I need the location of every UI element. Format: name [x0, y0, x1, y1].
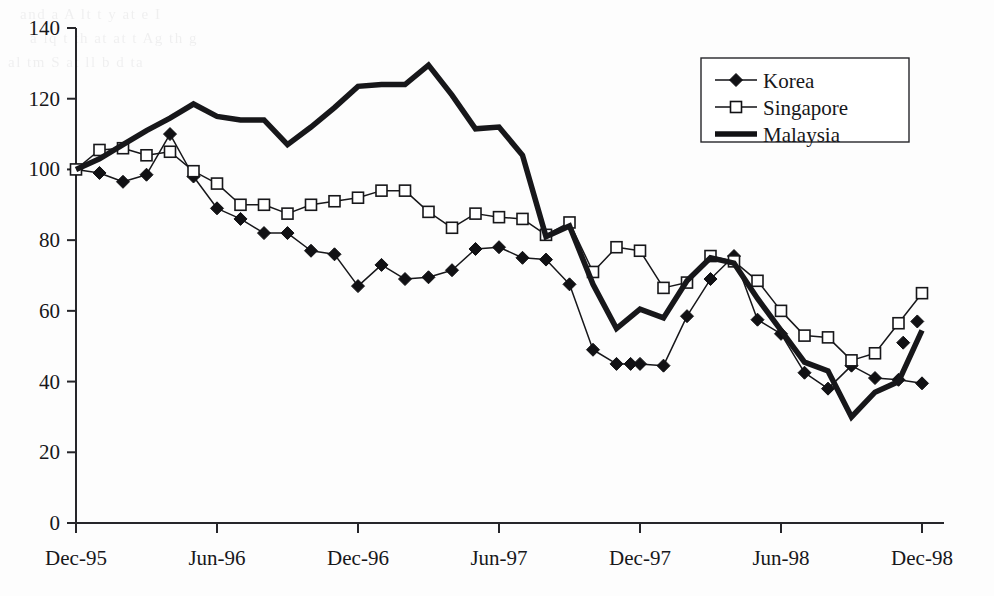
- data-point-marker: [258, 227, 271, 240]
- data-point-marker: [399, 273, 412, 286]
- data-point-marker: [423, 206, 434, 217]
- data-point-marker: [141, 150, 152, 161]
- data-point-marker: [624, 357, 637, 370]
- data-point-marker: [751, 313, 764, 326]
- x-tick-label: Dec-96: [327, 546, 389, 570]
- data-point-marker: [516, 251, 529, 264]
- data-point-marker: [798, 366, 811, 379]
- data-point-marker: [517, 213, 528, 224]
- y-tick-label: 40: [39, 370, 60, 394]
- data-point-marker: [610, 357, 623, 370]
- legend-label: Korea: [763, 69, 815, 93]
- data-point-marker: [164, 128, 177, 141]
- x-axis-ticks: [76, 523, 922, 533]
- data-point-marker: [470, 208, 481, 219]
- data-point-marker: [306, 199, 317, 210]
- data-point-marker: [587, 343, 600, 356]
- data-point-marker: [916, 377, 929, 390]
- y-tick-label: 140: [29, 16, 61, 40]
- data-point-marker: [305, 244, 318, 257]
- data-point-marker: [752, 275, 763, 286]
- y-tick-label: 20: [39, 440, 60, 464]
- data-point-marker: [212, 178, 223, 189]
- data-point-marker: [493, 241, 506, 254]
- data-point-marker: [282, 208, 293, 219]
- x-tick-label: Dec-95: [45, 546, 107, 570]
- legend-label: Singapore: [763, 96, 848, 120]
- data-point-marker: [799, 330, 810, 341]
- data-point-marker: [235, 199, 246, 210]
- data-point-marker: [422, 271, 435, 284]
- data-point-marker: [211, 202, 224, 215]
- data-point-marker: [259, 199, 270, 210]
- y-axis-tick-labels: 020406080100120140: [29, 16, 61, 535]
- data-point-marker: [897, 336, 910, 349]
- x-tick-label: Dec-97: [609, 546, 671, 570]
- data-point-marker: [494, 212, 505, 223]
- data-point-marker: [657, 359, 670, 372]
- data-point-marker: [329, 196, 340, 207]
- line-chart: 020406080100120140 Dec-95Jun-96Dec-96Jun…: [0, 0, 994, 596]
- legend-label: Malaysia: [763, 123, 841, 147]
- data-point-marker: [234, 212, 247, 225]
- y-tick-label: 100: [29, 157, 61, 181]
- data-point-marker: [281, 227, 294, 240]
- data-point-marker: [823, 332, 834, 343]
- data-point-marker: [893, 318, 904, 329]
- data-point-marker: [870, 348, 881, 359]
- y-tick-label: 120: [29, 87, 61, 111]
- data-point-marker: [328, 248, 341, 261]
- x-tick-label: Dec-98: [891, 546, 953, 570]
- y-tick-label: 0: [50, 511, 61, 535]
- data-point-marker: [400, 185, 411, 196]
- chart-container: and a A lt t y at e I a lq t th at at t …: [0, 0, 994, 596]
- data-point-marker: [376, 185, 387, 196]
- y-axis-ticks: [67, 28, 76, 523]
- data-point-marker: [140, 168, 153, 181]
- data-point-marker: [93, 166, 106, 179]
- data-point-marker: [681, 310, 694, 323]
- data-point-marker: [635, 245, 646, 256]
- data-point-marker: [611, 242, 622, 253]
- x-tick-label: Jun-97: [470, 546, 527, 570]
- x-tick-label: Jun-96: [188, 546, 245, 570]
- data-point-marker: [869, 372, 882, 385]
- data-point-marker: [447, 222, 458, 233]
- x-tick-label: Jun-98: [752, 546, 809, 570]
- y-tick-label: 60: [39, 299, 60, 323]
- data-point-marker: [188, 166, 199, 177]
- data-point-marker: [117, 175, 130, 188]
- data-point-marker: [658, 282, 669, 293]
- chart-legend: KoreaSingaporeMalaysia: [701, 58, 909, 147]
- data-point-marker: [846, 355, 857, 366]
- data-point-marker: [776, 305, 787, 316]
- legend-swatch-open-square-icon: [731, 102, 742, 113]
- data-point-marker: [165, 146, 176, 157]
- x-axis-tick-labels: Dec-95Jun-96Dec-96Jun-97Dec-97Jun-98Dec-…: [45, 546, 953, 570]
- data-point-marker: [353, 192, 364, 203]
- data-point-marker: [911, 315, 924, 328]
- data-point-marker: [917, 288, 928, 299]
- y-tick-label: 80: [39, 228, 60, 252]
